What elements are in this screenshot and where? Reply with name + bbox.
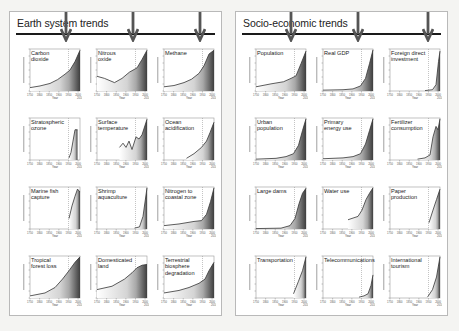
- svg-text:1950: 1950: [133, 231, 139, 235]
- svg-text:Year: Year: [186, 165, 192, 169]
- svg-text:1800: 1800: [330, 162, 336, 166]
- svg-text:1800: 1800: [104, 162, 110, 166]
- svg-text:1800: 1800: [330, 300, 336, 304]
- mini-chart: 1750180018501900195020002010YearLarge da…: [246, 185, 308, 245]
- svg-text:1950: 1950: [200, 162, 206, 166]
- svg-text:1750: 1750: [161, 93, 167, 97]
- mini-chart: 1750180018501900195020002010YearStratosp…: [20, 116, 82, 176]
- svg-text:Year: Year: [412, 96, 418, 100]
- mini-chart: 1750180018501900195020002010YearNitrogen…: [154, 185, 216, 245]
- chart-label: Urban population: [257, 119, 283, 132]
- chart-label: Water use: [324, 188, 349, 194]
- svg-text:Year: Year: [119, 165, 125, 169]
- chart-label: Large dams: [257, 188, 287, 194]
- chart-label: Telecommunications: [324, 257, 375, 263]
- svg-text:2010: 2010: [303, 96, 308, 100]
- svg-text:1950: 1950: [66, 162, 72, 166]
- chart-label: Transportation: [257, 257, 293, 263]
- svg-text:2010: 2010: [211, 165, 216, 169]
- svg-text:1950: 1950: [66, 300, 72, 304]
- mini-chart: 1750180018501900195020002010YearPaper pr…: [380, 185, 442, 245]
- chart-label: Nitrous oxide: [98, 50, 116, 63]
- svg-text:1950: 1950: [200, 93, 206, 97]
- chart-label: Foreign direct investment: [391, 50, 425, 63]
- svg-text:1750: 1750: [320, 300, 326, 304]
- down-arrow-icon: [194, 12, 206, 42]
- mini-chart: 1750180018501900195020002010YearMethane: [154, 47, 216, 107]
- svg-text:1750: 1750: [27, 231, 33, 235]
- mini-chart: 1750180018501900195020002010YearDomestic…: [87, 254, 149, 314]
- svg-text:1800: 1800: [171, 162, 177, 166]
- svg-text:2010: 2010: [437, 165, 442, 169]
- svg-text:1750: 1750: [387, 162, 393, 166]
- svg-text:2010: 2010: [437, 303, 442, 307]
- svg-text:1800: 1800: [263, 231, 269, 235]
- mini-chart: 1750180018501900195020002010YearTelecomm…: [313, 254, 375, 314]
- svg-text:Year: Year: [52, 96, 58, 100]
- chart-label: Terrestrial biosphere degradation: [165, 257, 195, 276]
- svg-text:2010: 2010: [144, 303, 149, 307]
- svg-text:Year: Year: [345, 165, 351, 169]
- chart-label: Real GDP: [324, 50, 349, 56]
- svg-text:2010: 2010: [144, 234, 149, 238]
- svg-text:1800: 1800: [263, 300, 269, 304]
- svg-text:1950: 1950: [426, 162, 432, 166]
- svg-text:1950: 1950: [359, 300, 365, 304]
- svg-text:1750: 1750: [94, 300, 100, 304]
- svg-text:1800: 1800: [171, 93, 177, 97]
- mini-chart: 1750180018501900195020002010YearNitrous …: [87, 47, 149, 107]
- svg-text:1800: 1800: [263, 162, 269, 166]
- svg-text:Year: Year: [278, 234, 284, 238]
- mini-chart: 1750180018501900195020002010YearPopulati…: [246, 47, 308, 107]
- chart-label: Methane: [165, 50, 187, 56]
- svg-text:1950: 1950: [426, 300, 432, 304]
- svg-text:1800: 1800: [263, 93, 269, 97]
- svg-text:1800: 1800: [330, 93, 336, 97]
- svg-text:Year: Year: [186, 96, 192, 100]
- svg-text:1800: 1800: [37, 231, 43, 235]
- mini-chart: 1750180018501900195020002010YearTranspor…: [246, 254, 308, 314]
- svg-text:2010: 2010: [77, 96, 82, 100]
- chart-label: Primary energy use: [324, 119, 352, 132]
- svg-text:Year: Year: [119, 234, 125, 238]
- mini-chart: 1750180018501900195020002010YearSurface …: [87, 116, 149, 176]
- svg-text:1750: 1750: [253, 93, 259, 97]
- svg-text:1800: 1800: [37, 162, 43, 166]
- svg-text:1750: 1750: [253, 300, 259, 304]
- svg-text:1950: 1950: [292, 162, 298, 166]
- mini-chart: 1750180018501900195020002010YearShrimp a…: [87, 185, 149, 245]
- svg-text:1750: 1750: [387, 300, 393, 304]
- down-arrow-icon: [422, 12, 434, 42]
- mini-chart: 1750180018501900195020002010YearMarine f…: [20, 185, 82, 245]
- svg-text:1750: 1750: [320, 231, 326, 235]
- mini-chart: 1750180018501900195020002010YearInternat…: [380, 254, 442, 314]
- mini-chart: 1750180018501900195020002010YearCarbon d…: [20, 47, 82, 107]
- down-arrow-icon: [127, 12, 139, 42]
- mini-chart: 1750180018501900195020002010YearTropical…: [20, 254, 82, 314]
- svg-text:1950: 1950: [66, 93, 72, 97]
- chart-label: Population: [257, 50, 283, 56]
- chart-label: International tourism: [391, 257, 422, 270]
- svg-text:1800: 1800: [330, 231, 336, 235]
- timeline-rule: [16, 33, 215, 35]
- svg-text:2010: 2010: [437, 96, 442, 100]
- svg-text:1750: 1750: [253, 162, 259, 166]
- chart-label: Nitrogen to coastal zone: [165, 188, 196, 201]
- svg-text:1950: 1950: [426, 93, 432, 97]
- svg-text:1750: 1750: [27, 93, 33, 97]
- svg-text:Year: Year: [119, 96, 125, 100]
- svg-text:1750: 1750: [94, 231, 100, 235]
- svg-text:1750: 1750: [161, 300, 167, 304]
- svg-text:1950: 1950: [200, 300, 206, 304]
- svg-text:1750: 1750: [253, 231, 259, 235]
- svg-text:2010: 2010: [370, 234, 375, 238]
- chart-label: Marine fish capture: [31, 188, 58, 201]
- svg-text:2010: 2010: [370, 303, 375, 307]
- mini-chart: 1750180018501900195020002010YearTerrestr…: [154, 254, 216, 314]
- svg-text:Year: Year: [186, 234, 192, 238]
- svg-text:Year: Year: [345, 96, 351, 100]
- svg-text:1950: 1950: [66, 231, 72, 235]
- svg-text:1800: 1800: [397, 300, 403, 304]
- svg-text:Year: Year: [278, 165, 284, 169]
- svg-text:1950: 1950: [133, 300, 139, 304]
